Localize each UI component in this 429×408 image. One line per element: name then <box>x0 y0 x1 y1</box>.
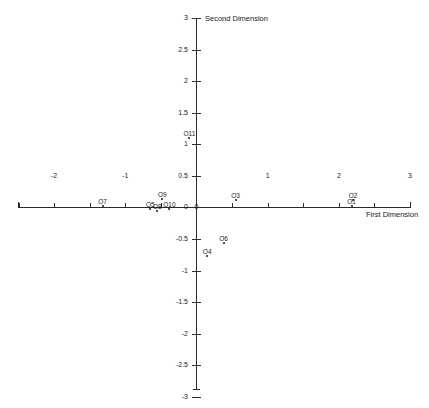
x-axis-tick <box>410 203 411 208</box>
x-axis-tick <box>303 203 304 208</box>
data-point-marker <box>352 199 354 201</box>
data-point-marker <box>168 208 170 210</box>
x-axis-tick <box>268 203 269 208</box>
y-axis-tick <box>192 81 201 82</box>
y-axis-tick-label: -2.5 <box>168 361 188 369</box>
y-axis-tick-label: 0 <box>174 203 188 211</box>
y-axis-tick <box>192 113 201 114</box>
y-axis-tick <box>192 397 201 398</box>
x-axis-tick-label: 3 <box>408 172 412 180</box>
data-point-label: O9 <box>158 191 167 198</box>
x-axis-tick-label: 0 <box>195 203 199 211</box>
data-point-label: O6 <box>219 234 228 241</box>
data-point-marker <box>156 210 158 212</box>
y-axis-bottom-cap <box>193 389 200 390</box>
x-axis-tick <box>90 203 91 208</box>
data-point-marker <box>188 137 190 139</box>
data-point-label: O10 <box>163 200 175 207</box>
data-point-marker <box>235 199 237 201</box>
y-axis-title: Second Dimension <box>205 14 268 23</box>
y-axis-tick-label: 2.5 <box>168 46 188 54</box>
data-point-label: O11 <box>183 130 195 137</box>
y-axis-tick-label: 3 <box>168 14 188 22</box>
x-axis-tick <box>19 203 20 208</box>
y-axis-tick-label: 0.5 <box>168 172 188 180</box>
y-axis-tick-label: -1.5 <box>168 298 188 306</box>
data-point-marker <box>102 205 104 207</box>
scatter-plot: Second Dimension First Dimension -3-2-10… <box>0 0 429 408</box>
data-point-marker <box>149 208 151 210</box>
y-axis-tick-label: -1 <box>168 267 188 275</box>
y-axis-tick-label: -3 <box>168 393 188 401</box>
y-axis-tick-label: 2 <box>168 77 188 85</box>
data-point-label: O3 <box>231 191 240 198</box>
y-axis-tick <box>192 271 201 272</box>
data-point-label: O2 <box>349 191 358 198</box>
y-axis-tick <box>192 334 201 335</box>
y-axis-tick <box>192 302 201 303</box>
x-axis-tick <box>374 203 375 208</box>
x-axis-tick <box>125 203 126 208</box>
y-axis-tick-label: 1 <box>168 140 188 148</box>
x-axis-tick <box>54 203 55 208</box>
y-axis-tick-label: -2 <box>168 330 188 338</box>
data-point-label: O4 <box>203 247 212 254</box>
x-axis-tick <box>339 203 340 208</box>
x-axis-title: First Dimension <box>366 210 418 219</box>
x-axis-tick <box>232 203 233 208</box>
data-point-marker <box>206 255 208 257</box>
y-axis-tick <box>192 144 201 145</box>
y-axis-tick <box>192 239 201 240</box>
data-point-marker <box>351 205 353 207</box>
y-axis-tick-label: -0.5 <box>168 235 188 243</box>
x-axis-tick-label: -1 <box>122 172 128 180</box>
y-axis-tick <box>192 176 201 177</box>
data-point-marker <box>223 242 225 244</box>
y-axis-tick <box>192 18 201 19</box>
data-point-label: O8 <box>153 203 162 210</box>
y-axis-tick <box>192 50 201 51</box>
y-axis-tick-label: 1.5 <box>168 109 188 117</box>
y-axis-tick <box>192 365 201 366</box>
data-point-label: O7 <box>98 197 107 204</box>
x-axis-tick-label: 2 <box>337 172 341 180</box>
x-axis-tick-label: -2 <box>51 172 57 180</box>
x-axis-tick-label: 1 <box>266 172 270 180</box>
